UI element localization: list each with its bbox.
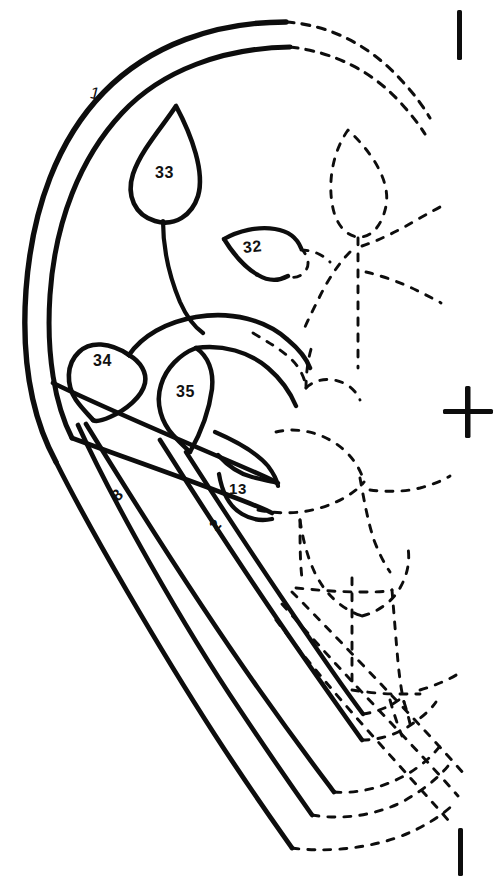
reconstructed-lobe-a-right [306,379,360,400]
label-35: 35 [176,383,195,401]
reconstructed-branch-left [305,252,350,327]
reconstructed-vein-tip-arc [292,802,456,850]
reconstructed-lobe-c-top [370,476,450,491]
reconstructed-sheath-band-top [296,588,392,592]
reconstructed-lobe-b-upper [276,430,364,482]
registration-marks-group [443,10,493,876]
outer-bract-reconstructed-group [286,22,430,134]
lateral-leaflet-32-top-edge [224,228,301,248]
lateral-leaflet-32-group [224,228,330,280]
reconstructed-lobe-b-lower [258,482,364,513]
central-receptacle-group [129,315,310,486]
reconstructed-lobe-d-right [362,548,409,616]
reconstructed-bud-group [305,130,442,368]
line-drawing-svg [0,0,499,885]
reconstructed-bud-outline [331,130,387,237]
reconstructed-lobes-group [253,333,450,616]
reconstructed-branch-lower-right [366,272,441,303]
reconstructed-sheath-spur [420,674,458,690]
cross-horizontal-bar [443,409,493,414]
label-32: 32 [242,237,263,257]
upper-leaflet-33-group [131,106,203,333]
label-34: 34 [93,352,112,370]
label-13: 13 [229,480,247,497]
tick-bottom-mark [458,828,463,876]
reconstructed-sheath-right-edge [392,590,404,702]
reconstructed-vein-2 [282,604,458,796]
tick-top-mark [457,10,462,60]
receptacle-upper-arc [129,315,310,368]
outer-bract-inner-edge-dashed [290,47,425,134]
label-33: 33 [155,164,174,182]
reconstructed-lobe-d-vein [300,520,302,578]
figure-canvas: 1 33 32 34 35 13 8 2 [0,0,499,885]
lateral-leaflet-32-tip-dashed [288,248,308,277]
vein-bract-band-upper [53,383,276,482]
vein-inner [186,452,363,714]
vein-middle [86,424,334,792]
reconstructed-vein-fan-group [276,592,464,850]
reconstructed-vein-tip-arc-3 [334,746,440,792]
reconstructed-branch-upper-right [362,206,442,246]
